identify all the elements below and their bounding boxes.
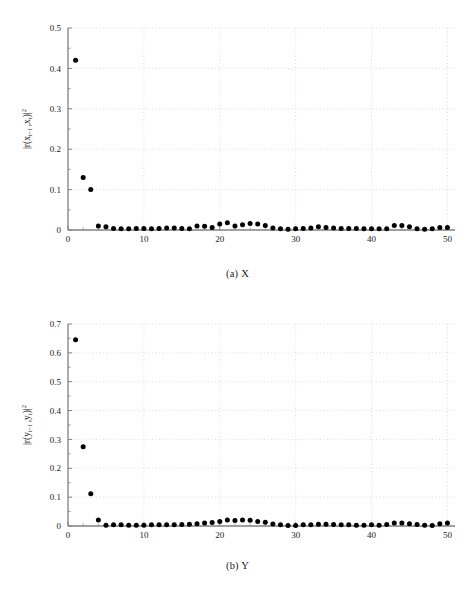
data-point bbox=[369, 522, 374, 527]
data-point bbox=[361, 523, 366, 528]
svg-text:|r(xt−l ,xt)|2: |r(xt−l ,xt)|2 bbox=[20, 109, 33, 149]
data-point bbox=[255, 221, 260, 226]
data-point bbox=[407, 224, 412, 229]
data-point bbox=[308, 522, 313, 527]
x-tick-label: 50 bbox=[443, 530, 453, 540]
data-point bbox=[225, 220, 230, 225]
data-point bbox=[141, 226, 146, 231]
data-point bbox=[157, 522, 162, 527]
data-point bbox=[445, 521, 450, 526]
data-point bbox=[324, 225, 329, 230]
data-point bbox=[293, 523, 298, 528]
y-tick-label: 0.7 bbox=[50, 319, 62, 329]
y-tick-label: 0 bbox=[57, 225, 62, 235]
data-point bbox=[202, 521, 207, 526]
data-point bbox=[103, 523, 108, 528]
x-tick-label: 40 bbox=[367, 234, 377, 244]
data-point bbox=[217, 221, 222, 226]
axis-spines bbox=[68, 28, 455, 230]
data-point bbox=[179, 226, 184, 231]
data-point bbox=[210, 520, 215, 525]
data-point bbox=[126, 226, 131, 231]
data-point bbox=[225, 517, 230, 522]
data-point bbox=[134, 226, 139, 231]
data-point bbox=[361, 226, 366, 231]
y-tick-label: 0 bbox=[57, 521, 62, 531]
figure-panel-b: 00.10.20.30.40.50.60.701020304050l|r(yt−… bbox=[0, 296, 475, 592]
y-tick-label: 0.1 bbox=[50, 492, 61, 502]
plot-area-a: 00.10.20.30.40.501020304050l|r(xt−l ,xt)… bbox=[0, 0, 475, 252]
data-point bbox=[301, 226, 306, 231]
data-point bbox=[270, 521, 275, 526]
data-point bbox=[179, 522, 184, 527]
data-point bbox=[324, 522, 329, 527]
data-point bbox=[316, 224, 321, 229]
data-point bbox=[437, 225, 442, 230]
data-point bbox=[270, 225, 275, 230]
data-point bbox=[187, 522, 192, 527]
data-point bbox=[331, 522, 336, 527]
x-tick-label: 10 bbox=[139, 234, 149, 244]
y-tick-label: 0.5 bbox=[50, 23, 62, 33]
data-point bbox=[301, 522, 306, 527]
data-point bbox=[119, 226, 124, 231]
data-point bbox=[164, 522, 169, 527]
x-tick-label: 20 bbox=[215, 234, 225, 244]
data-point bbox=[293, 226, 298, 231]
data-point bbox=[384, 522, 389, 527]
data-point bbox=[111, 522, 116, 527]
y-tick-label: 0.1 bbox=[50, 185, 61, 195]
x-tick-label: 30 bbox=[291, 530, 301, 540]
data-point bbox=[172, 225, 177, 230]
data-point bbox=[445, 225, 450, 230]
data-point bbox=[81, 444, 86, 449]
data-point bbox=[240, 517, 245, 522]
data-point bbox=[278, 226, 283, 231]
y-tick-label: 0.2 bbox=[50, 144, 61, 154]
data-point bbox=[308, 225, 313, 230]
data-point bbox=[119, 522, 124, 527]
x-tick-label: 0 bbox=[66, 530, 71, 540]
data-point bbox=[149, 522, 154, 527]
data-point bbox=[407, 521, 412, 526]
data-point bbox=[217, 519, 222, 524]
y-tick-label: 0.3 bbox=[50, 104, 62, 114]
y-tick-label: 0.5 bbox=[50, 377, 62, 387]
y-tick-label: 0.2 bbox=[50, 463, 61, 473]
axis-spines bbox=[68, 324, 455, 526]
scatter-plot-a: 00.10.20.30.40.501020304050l|r(xt−l ,xt)… bbox=[0, 0, 475, 252]
x-tick-label: 30 bbox=[291, 234, 301, 244]
data-point bbox=[354, 226, 359, 231]
data-point bbox=[73, 58, 78, 63]
data-point bbox=[255, 519, 260, 524]
data-point bbox=[377, 226, 382, 231]
figure-panel-a: 00.10.20.30.40.501020304050l|r(xt−l ,xt)… bbox=[0, 0, 475, 296]
x-tick-label: 0 bbox=[66, 234, 71, 244]
data-point bbox=[331, 225, 336, 230]
data-point bbox=[232, 518, 237, 523]
data-point bbox=[187, 226, 192, 231]
data-point bbox=[81, 175, 86, 180]
data-point bbox=[384, 226, 389, 231]
data-point bbox=[88, 491, 93, 496]
data-point bbox=[210, 225, 215, 230]
y-axis-ticks: 00.10.20.30.40.5 bbox=[50, 23, 72, 235]
y-tick-label: 0.4 bbox=[50, 406, 62, 416]
data-point bbox=[286, 227, 291, 232]
data-point bbox=[369, 226, 374, 231]
data-point bbox=[346, 522, 351, 527]
data-point bbox=[96, 517, 101, 522]
svg-text:|r(yt−l ,yt)|2: |r(yt−l ,yt)|2 bbox=[20, 405, 33, 445]
data-point bbox=[141, 523, 146, 528]
x-axis-ticks: 01020304050 bbox=[66, 226, 453, 244]
data-point bbox=[248, 518, 253, 523]
data-point bbox=[111, 226, 116, 231]
data-points bbox=[73, 337, 450, 528]
data-point bbox=[263, 223, 268, 228]
data-point bbox=[172, 522, 177, 527]
y-tick-label: 0.3 bbox=[50, 435, 62, 445]
data-point bbox=[399, 521, 404, 526]
data-point bbox=[103, 224, 108, 229]
y-tick-label: 0.6 bbox=[50, 348, 62, 358]
data-point bbox=[232, 223, 237, 228]
